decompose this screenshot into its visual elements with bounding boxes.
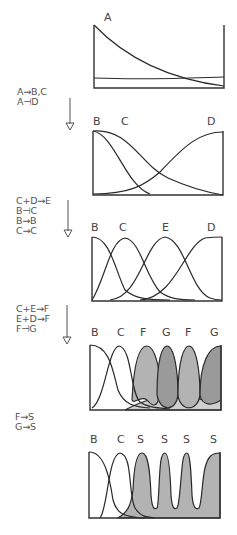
concentration-label: B [91, 326, 99, 339]
E-band-curve [110, 237, 222, 300]
concentration-label: C [121, 115, 129, 128]
stage-3-panel: BCED [91, 221, 222, 301]
arrowhead-icon [64, 230, 72, 237]
concentration-label: D [207, 221, 215, 234]
G-stripe-1-curve [157, 346, 178, 408]
stage-2-panel: BCD [93, 115, 223, 195]
concentration-label: C [117, 326, 125, 339]
rules-4: F→SG→S [15, 411, 36, 432]
concentration-label: F [185, 326, 191, 339]
concentration-label: F [140, 326, 146, 339]
concentration-label: G [210, 326, 219, 339]
rules-2: C+D→EB⊣CB→BC→C [16, 195, 72, 237]
arrowhead-icon [63, 337, 71, 344]
F-stripe-2-curve [178, 346, 200, 408]
arrowhead-icon [66, 123, 74, 130]
morphogen-cascade-diagram: ABCDBCEDBCFGFGBCSSSSA→B,CA⊣DC+D→EB⊣CB→BC… [0, 0, 237, 535]
G-stripe-2-curve [200, 346, 221, 404]
concentration-label: C [119, 221, 127, 234]
S-segments-curve [118, 453, 220, 518]
concentration-label: S [137, 433, 144, 446]
A-gradient-curve [94, 25, 224, 86]
panel-frame [92, 237, 222, 301]
rule-text: G→S [15, 421, 36, 432]
concentration-label: D [207, 115, 215, 128]
rule-text: A⊣D [17, 96, 39, 107]
D-gradient-curve [93, 132, 223, 194]
concentration-label: E [162, 221, 169, 234]
stage-1-panel: A [94, 11, 224, 88]
stage-4-panel: BCFGFG [90, 326, 221, 410]
rule-text: F⊣G [16, 323, 37, 334]
concentration-label: S [161, 433, 168, 446]
concentration-label: B [90, 433, 98, 446]
concentration-label: B [93, 115, 101, 128]
rule-text: C→C [16, 225, 37, 236]
stage-5-panel: BCSSSS [89, 433, 220, 518]
D-band-curve [140, 237, 222, 300]
rules-1: A→B,CA⊣D [17, 86, 74, 130]
baseline-flat-curve [94, 77, 224, 79]
concentration-label: G [162, 326, 171, 339]
rules-3: C+E→FE+D→FF⊣G [16, 303, 71, 344]
concentration-label: C [117, 433, 125, 446]
C-gradient-curve [93, 131, 223, 195]
concentration-label: B [91, 221, 99, 234]
panel-frame [93, 131, 223, 195]
concentration-label: S [210, 433, 217, 446]
concentration-label: A [104, 11, 112, 24]
concentration-label: S [183, 433, 190, 446]
